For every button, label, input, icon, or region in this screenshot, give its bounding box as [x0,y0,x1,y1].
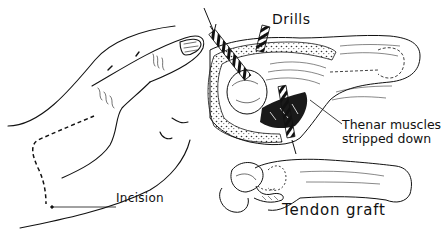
incision-line [33,116,94,204]
thenar-label-line1: Thenar muscles [342,118,441,132]
tendon-graft-label: Tendon graft [282,203,386,218]
thenar-muscles-label: Thenar muscles stripped down [342,118,441,146]
drills-label: Drills [272,12,311,26]
hand-outline [8,26,204,228]
thenar-label-line2: stripped down [342,132,441,146]
incision-label: Incision [116,192,164,204]
